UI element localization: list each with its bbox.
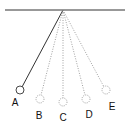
bob-c bbox=[59, 98, 67, 106]
string-d bbox=[63, 10, 85, 95]
bob-d bbox=[82, 95, 90, 103]
label-e: E bbox=[109, 101, 116, 112]
label-d: D bbox=[85, 109, 92, 120]
bob-e bbox=[102, 86, 110, 94]
position-d: D bbox=[63, 10, 93, 120]
position-a: A bbox=[12, 10, 63, 108]
string-b bbox=[41, 10, 63, 95]
bob-a bbox=[16, 86, 24, 94]
position-b: B bbox=[36, 10, 63, 121]
string-a bbox=[22, 10, 63, 87]
bob-b bbox=[36, 95, 44, 103]
pendulum-diagram: A B C D E bbox=[0, 0, 131, 125]
label-a: A bbox=[12, 97, 19, 108]
position-c: C bbox=[59, 10, 67, 123]
string-e bbox=[63, 10, 104, 87]
label-c: C bbox=[59, 112, 66, 123]
label-b: B bbox=[36, 110, 43, 121]
